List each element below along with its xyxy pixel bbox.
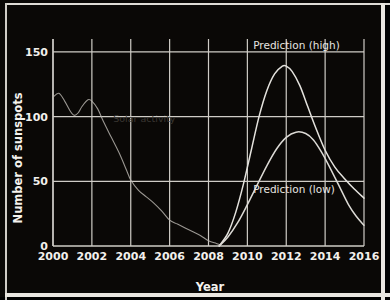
series-annotation-label: Prediction (high) [253,39,340,51]
grid-lines [53,39,364,246]
series-line [219,65,364,246]
x-tick-label: 2006 [154,250,185,263]
x-axis-title: Year [195,280,225,294]
sunspot-line-chart: 200020022004200620082010201220142016 050… [5,3,390,300]
x-tick-label: 2002 [77,250,108,263]
y-tick-label: 150 [25,46,48,59]
page-border-top [5,3,390,5]
x-tick-label: 2012 [271,250,302,263]
y-tick-label: 50 [33,175,49,188]
x-tick-label: 2004 [115,250,146,263]
y-tick-labels: 050100150 [25,46,48,253]
page-border-left [5,3,7,300]
x-tick-label: 2010 [232,250,263,263]
y-tick-label: 100 [25,111,48,124]
x-tick-label: 2014 [310,250,341,263]
y-tick-label: 0 [40,240,48,253]
x-tick-labels: 200020022004200620082010201220142016 [38,250,380,263]
x-tick-label: 2008 [193,250,224,263]
series-annotation-label: Prediction (low) [253,183,335,195]
y-axis-title: Number of sunspots [11,92,25,223]
x-tick-label: 2016 [349,250,380,263]
page-border-bottom [5,293,390,297]
page-border-right [381,3,385,300]
series-annotation-label: Solar activity [113,113,176,124]
